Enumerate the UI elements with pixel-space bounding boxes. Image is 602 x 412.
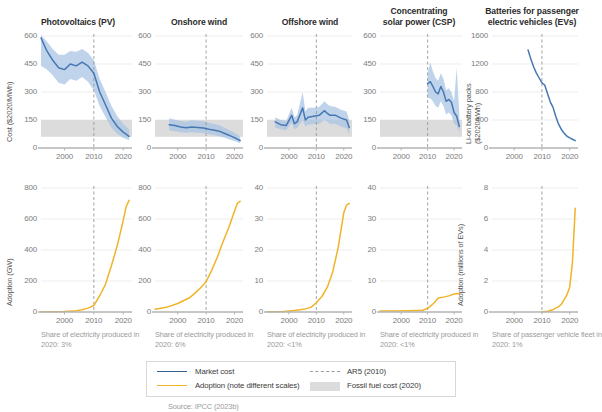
y-tick-label: 0: [225, 307, 263, 316]
panel-footnote: Share of passenger vehicle fleet in 2020…: [492, 330, 602, 349]
legend-label-1: Adoption (note different scales): [195, 381, 300, 390]
adoption-line: [380, 293, 459, 311]
panel-title-2: Offshore wind: [252, 17, 368, 28]
y-tick-label: 600: [338, 31, 376, 40]
cost-range-band: [275, 92, 349, 134]
y-tick-label: 1200: [450, 59, 488, 68]
y-tick-label: 0: [338, 143, 376, 152]
x-tick-label: 2000: [48, 316, 80, 325]
legend-swatch-2: [310, 371, 340, 372]
y-tick-label: 200: [113, 276, 151, 285]
legend: Market costAdoption (note different scal…: [146, 361, 456, 397]
x-tick-label: 2020: [107, 152, 139, 161]
legend-swatch-1: [157, 385, 187, 386]
y-tick-label: 40: [225, 183, 263, 192]
y-tick-label: 6: [450, 214, 488, 223]
x-tick-label: 2020: [328, 316, 360, 325]
x-tick-label: 2020: [328, 152, 360, 161]
y-tick-label: 0: [450, 307, 488, 316]
legend-swatch-0: [157, 371, 187, 372]
y-axis-label: Cost ($2020/MWh): [5, 82, 14, 142]
legend-label-3: Fossil fuel cost (2020): [347, 381, 421, 390]
y-tick-label: 600: [225, 31, 263, 40]
y-tick-label: 30: [225, 214, 263, 223]
y-axis-label: Adoption (GW): [5, 258, 14, 306]
y-tick-label: 300: [113, 87, 151, 96]
adoption-line: [542, 208, 575, 312]
market-cost-line: [169, 125, 240, 141]
y-tick-label: 0: [225, 143, 263, 152]
y-tick-label: 400: [113, 245, 151, 254]
x-tick-label: 2020: [218, 316, 250, 325]
x-tick-label: 2020: [107, 316, 139, 325]
x-tick-label: 2010: [78, 152, 110, 161]
y-tick-label: 30: [338, 214, 376, 223]
x-tick-label: 2020: [438, 152, 470, 161]
y-tick-label: 0: [0, 143, 37, 152]
y-tick-label: 300: [225, 87, 263, 96]
panel-footnote: Share of electricity produced in 2020: 3…: [41, 330, 156, 349]
y-tick-label: 0: [113, 143, 151, 152]
y-tick-label: 20: [225, 245, 263, 254]
panel-title-0: Photovoltaics (PV): [14, 17, 142, 28]
y-tick-label: 8: [450, 183, 488, 192]
x-tick-label: 2010: [190, 316, 222, 325]
y-tick-label: 40: [338, 183, 376, 192]
y-tick-label: 450: [225, 59, 263, 68]
panel-title-1: Onshore wind: [140, 17, 258, 28]
y-tick-label: 800: [113, 183, 151, 192]
panel-footnote: Share of electricity produced in 2020: <…: [380, 330, 486, 349]
panel-title-3: Concentratingsolar power (CSP): [360, 6, 478, 28]
y-tick-label: 0: [0, 307, 37, 316]
legend-label-0: Market cost: [195, 367, 234, 376]
x-tick-label: 2020: [438, 316, 470, 325]
y-tick-label: 600: [113, 31, 151, 40]
panel-title-4: Batteries for passengerelectric vehicles…: [470, 6, 594, 28]
x-tick-label: 2020: [218, 152, 250, 161]
x-tick-label: 2010: [78, 316, 110, 325]
adoption-line: [267, 204, 349, 312]
x-tick-label: 2000: [162, 316, 194, 325]
y-tick-label: 0: [338, 307, 376, 316]
y-tick-label: 0: [450, 143, 488, 152]
y-axis-label: Adoption (millions of EVs): [456, 224, 465, 306]
market-cost-line: [528, 50, 575, 141]
y-tick-label: 800: [0, 183, 37, 192]
y-tick-label: 600: [0, 214, 37, 223]
y-tick-label: 10: [338, 276, 376, 285]
x-tick-label: 2000: [48, 152, 80, 161]
y-tick-label: 300: [338, 87, 376, 96]
legend-swatch-3: [310, 382, 340, 391]
y-tick-label: 0: [113, 307, 151, 316]
y-tick-label: 600: [113, 214, 151, 223]
y-tick-label: 150: [113, 115, 151, 124]
x-tick-label: 2020: [554, 152, 586, 161]
panel-footnote: Share of electricity produced in 2020: <…: [267, 330, 376, 349]
x-tick-label: 2020: [554, 316, 586, 325]
legend-label-2: AR5 (2010): [347, 367, 386, 376]
y-tick-label: 600: [0, 31, 37, 40]
panel-footnote: Share of electricity produced in 2020: 6…: [155, 330, 267, 349]
y-tick-label: 20: [338, 245, 376, 254]
y-tick-label: 1600: [450, 31, 488, 40]
x-tick-label: 2010: [190, 152, 222, 161]
y-tick-label: 150: [338, 115, 376, 124]
y-tick-label: 450: [113, 59, 151, 68]
y-tick-label: 450: [0, 59, 37, 68]
y-tick-label: 10: [225, 276, 263, 285]
x-tick-label: 2000: [162, 152, 194, 161]
source-note: Source: IPCC (2023b): [168, 402, 239, 411]
y-tick-label: 450: [338, 59, 376, 68]
y-tick-label: 400: [0, 245, 37, 254]
y-axis-label: Li-on battery packs($2020/kWh): [464, 83, 482, 144]
